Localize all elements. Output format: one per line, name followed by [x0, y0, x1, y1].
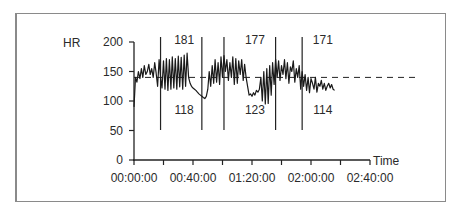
x-tick-label: 01:20:00	[229, 171, 276, 185]
y-tick-label: 100	[103, 94, 123, 108]
x-axis-ticks: 00:00:0000:40:0001:20:0002:00:0002:40:00	[111, 160, 394, 185]
x-tick-label: 00:40:00	[170, 171, 217, 185]
y-tick-label: 50	[110, 124, 124, 138]
y-tick-label: 200	[103, 35, 123, 49]
hr-chart: HR 050100150200 00:00:0000:40:0001:20:00…	[0, 0, 458, 219]
hr-series-line	[134, 53, 335, 107]
x-axis-label: Time	[373, 154, 400, 168]
annotation-above: 181	[174, 33, 194, 47]
y-axis-ticks: 050100150200	[103, 35, 134, 167]
annotation-below: 123	[245, 103, 265, 117]
annotation-below: 118	[175, 103, 194, 117]
x-tick-label: 02:40:00	[347, 171, 394, 185]
x-tick-label: 00:00:00	[111, 171, 158, 185]
y-tick-label: 150	[103, 65, 123, 79]
annotation-below: 114	[313, 103, 332, 117]
x-tick-label: 02:00:00	[288, 171, 335, 185]
y-axis-label: HR	[63, 36, 81, 50]
annotation-above: 171	[313, 33, 333, 47]
peak-trough-annotations: 181118177123171114	[174, 33, 333, 117]
annotation-above: 177	[245, 33, 265, 47]
y-tick-label: 0	[116, 153, 123, 167]
